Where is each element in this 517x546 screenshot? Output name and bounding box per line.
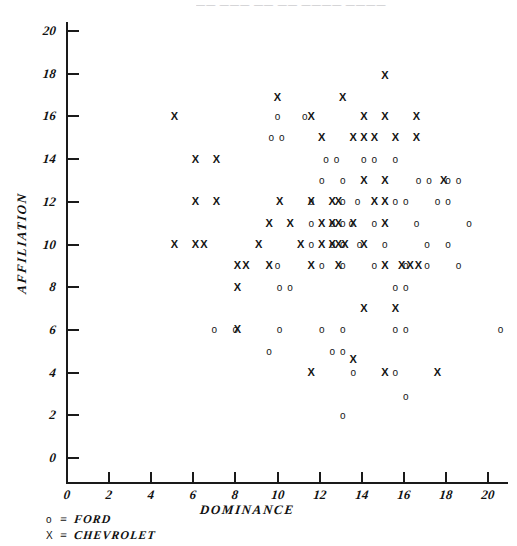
- data-point-chevrolet: X: [348, 354, 359, 365]
- x-tick-16: [403, 472, 405, 483]
- x-tick-12: [319, 472, 321, 483]
- data-point-chevrolet: X: [333, 218, 344, 229]
- y-tick-label-4: 4: [25, 365, 57, 381]
- data-point-chevrolet: X: [379, 367, 390, 378]
- legend-label-ford: FORD: [73, 512, 112, 526]
- data-point-chevrolet: X: [390, 303, 401, 314]
- x-tick-2: [108, 472, 110, 483]
- data-point-ford: o: [272, 111, 283, 122]
- y-tick-16: [68, 115, 79, 117]
- data-point-chevrolet: X: [306, 111, 317, 122]
- data-point-chevrolet: X: [306, 196, 317, 207]
- data-point-chevrolet: X: [272, 92, 283, 103]
- scatter-plot-figure: —— ——— —— —— ———— ———— 02468101214161820…: [0, 0, 517, 546]
- legend-row-ford: o=FORD: [45, 512, 156, 528]
- data-point-ford: o: [327, 346, 338, 357]
- data-point-chevrolet: X: [413, 260, 424, 271]
- x-tick-label-18: 18: [430, 487, 462, 503]
- data-point-chevrolet: X: [369, 132, 380, 143]
- data-point-chevrolet: X: [379, 218, 390, 229]
- data-point-chevrolet: X: [348, 132, 359, 143]
- data-point-ford: o: [337, 175, 348, 186]
- data-point-chevrolet: X: [379, 260, 390, 271]
- y-tick-label-0: 0: [25, 450, 57, 466]
- data-point-ford: o: [390, 196, 401, 207]
- data-point-ford: o: [316, 324, 327, 335]
- data-point-ford: o: [306, 239, 317, 250]
- data-point-chevrolet: X: [379, 70, 390, 81]
- data-point-ford: o: [400, 324, 411, 335]
- data-point-ford: o: [320, 154, 331, 165]
- y-tick-label-14: 14: [25, 151, 57, 167]
- y-tick-4: [68, 372, 79, 374]
- data-point-chevrolet: X: [339, 239, 350, 250]
- y-tick-20: [68, 30, 79, 32]
- data-point-chevrolet: X: [316, 132, 327, 143]
- data-point-ford: o: [348, 367, 359, 378]
- data-point-chevrolet: X: [285, 218, 296, 229]
- data-point-ford: o: [390, 324, 401, 335]
- data-point-ford: o: [337, 410, 348, 421]
- data-point-ford: o: [413, 175, 424, 186]
- x-tick-0: [66, 472, 68, 483]
- data-point-chevrolet: X: [348, 218, 359, 229]
- data-point-chevrolet: X: [274, 196, 285, 207]
- x-axis-line: [66, 482, 508, 484]
- data-point-ford: o: [379, 239, 390, 250]
- data-point-ford: o: [274, 324, 285, 335]
- data-point-ford: o: [390, 154, 401, 165]
- data-point-chevrolet: X: [211, 154, 222, 165]
- data-point-ford: o: [424, 175, 435, 186]
- data-point-ford: o: [443, 239, 454, 250]
- data-point-chevrolet: X: [306, 367, 317, 378]
- data-point-ford: o: [453, 175, 464, 186]
- data-point-ford: o: [276, 132, 287, 143]
- data-point-chevrolet: X: [306, 260, 317, 271]
- x-tick-18: [445, 472, 447, 483]
- data-point-chevrolet: X: [253, 239, 264, 250]
- data-point-chevrolet: X: [333, 196, 344, 207]
- x-tick-label-20: 20: [472, 487, 504, 503]
- x-tick-10: [277, 472, 279, 483]
- data-point-ford: o: [400, 391, 411, 402]
- data-point-ford: o: [411, 218, 422, 229]
- data-point-chevrolet: X: [358, 175, 369, 186]
- data-point-chevrolet: X: [333, 260, 344, 271]
- data-point-ford: o: [390, 367, 401, 378]
- data-point-ford: o: [421, 239, 432, 250]
- legend: o=FORDX=CHEVROLET: [46, 512, 156, 544]
- x-tick-20: [487, 472, 489, 483]
- y-tick-10: [68, 244, 79, 246]
- data-point-chevrolet: X: [264, 260, 275, 271]
- data-point-ford: o: [400, 196, 411, 207]
- y-tick-12: [68, 201, 79, 203]
- data-point-ford: o: [369, 260, 380, 271]
- data-point-ford: o: [331, 154, 342, 165]
- data-point-ford: o: [432, 196, 443, 207]
- data-point-ford: o: [369, 218, 380, 229]
- data-point-chevrolet: X: [369, 196, 380, 207]
- data-point-chevrolet: X: [411, 132, 422, 143]
- data-point-ford: o: [266, 132, 277, 143]
- y-tick-2: [68, 414, 79, 416]
- data-point-ford: o: [369, 154, 380, 165]
- data-point-chevrolet: X: [190, 154, 201, 165]
- data-point-ford: o: [316, 175, 327, 186]
- data-point-ford: o: [274, 282, 285, 293]
- legend-marker-icon-ford: o: [46, 514, 60, 525]
- data-point-ford: o: [306, 218, 317, 229]
- y-axis-title: AFFILIATION: [14, 182, 30, 304]
- data-point-chevrolet: X: [232, 324, 243, 335]
- data-point-chevrolet: X: [438, 175, 449, 186]
- y-tick-label-16: 16: [25, 108, 57, 124]
- data-point-chevrolet: X: [358, 303, 369, 314]
- x-tick-label-6: 6: [177, 487, 209, 503]
- data-point-chevrolet: X: [169, 111, 180, 122]
- y-tick-18: [68, 73, 79, 75]
- data-point-ford: o: [264, 346, 275, 357]
- x-tick-label-8: 8: [220, 487, 252, 503]
- x-tick-14: [361, 472, 363, 483]
- data-point-ford: o: [337, 346, 348, 357]
- y-tick-14: [68, 158, 79, 160]
- data-point-chevrolet: X: [316, 218, 327, 229]
